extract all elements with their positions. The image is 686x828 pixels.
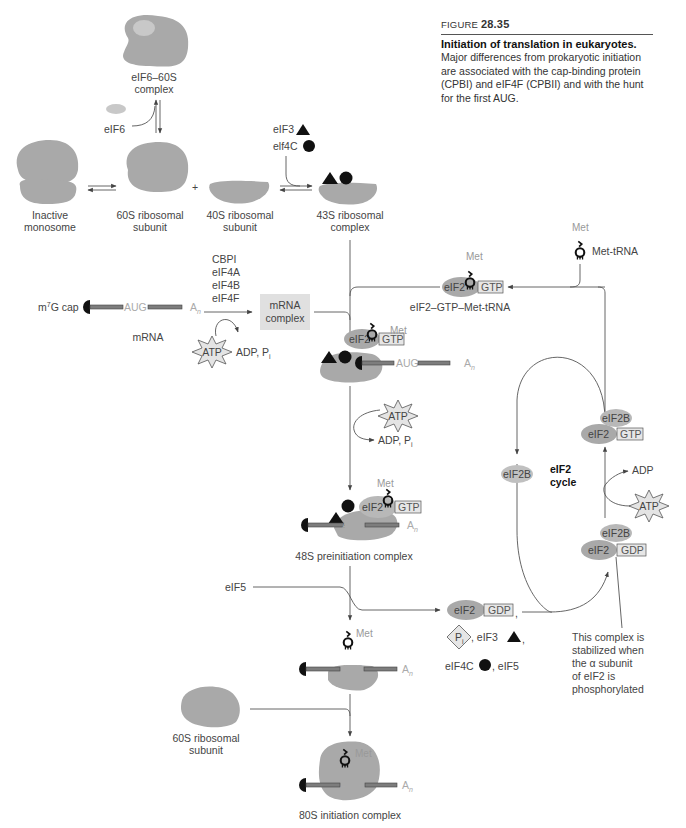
60s-label-2: subunit bbox=[133, 221, 167, 233]
release-to-cycle-arrow bbox=[522, 572, 608, 612]
80s-label: 80S initiation complex bbox=[299, 809, 402, 821]
mrna-complex-label-2: complex bbox=[265, 312, 305, 324]
released-eif5: , eIF5 bbox=[492, 660, 519, 672]
cycle-eif2b-eif2-gtp: eIF2B eIF2 GTP bbox=[581, 409, 643, 444]
final-60s-label-1: 60S ribosomal bbox=[172, 732, 239, 744]
svg-text:eIF2: eIF2 bbox=[588, 544, 609, 556]
mrna-complex-label-1: mRNA bbox=[270, 299, 301, 311]
phosphorylation-note: This complex is stabilized when the α su… bbox=[572, 631, 644, 695]
40s-label-1: 40S ribosomal bbox=[206, 209, 273, 221]
cycle-arc-top bbox=[517, 357, 605, 420]
mrna-complex-join-line bbox=[314, 312, 350, 320]
svg-text:stabilized when: stabilized when bbox=[572, 644, 644, 656]
released-eif4c-circle bbox=[479, 659, 491, 671]
factor-eif4a: eIF4A bbox=[212, 266, 240, 278]
pi-diamond: Pi bbox=[447, 625, 471, 649]
60s-label-1: 60S ribosomal bbox=[116, 209, 183, 221]
svg-text:GTP: GTP bbox=[620, 428, 642, 440]
mrna-bar-3 bbox=[148, 305, 182, 309]
released-eif2: eIF2 bbox=[454, 604, 475, 616]
48s-aug: AUG bbox=[342, 519, 365, 531]
svg-text:phosphorylated: phosphorylated bbox=[572, 683, 644, 695]
mrna-bar-5 bbox=[90, 305, 123, 309]
met-on-40s: Met bbox=[356, 628, 373, 639]
svg-text:eIF2B: eIF2B bbox=[602, 527, 630, 539]
released-comma: , bbox=[515, 607, 518, 619]
figure-page: FIGURE 28.35 Initiation of translation i… bbox=[0, 0, 686, 828]
met-trna-join-line bbox=[570, 264, 580, 287]
eif6-binding-arrow bbox=[132, 106, 155, 126]
svg-text:of eIF2 is: of eIF2 is bbox=[572, 670, 615, 682]
60s-subunit: 60S ribosomal subunit bbox=[116, 142, 188, 233]
inactive-label-1: Inactive bbox=[32, 209, 68, 221]
atp-hydrolysis-arrow-2 bbox=[354, 410, 380, 440]
scan-polya: An bbox=[464, 357, 475, 371]
plus-sign: + bbox=[192, 181, 198, 193]
cap-icon bbox=[83, 300, 90, 314]
eif6-60s-complex: eIF6–60S complex bbox=[123, 15, 188, 95]
40s-polya: An bbox=[402, 663, 413, 677]
atp-label-2: ATP bbox=[388, 410, 408, 422]
scan-met: Met bbox=[390, 325, 407, 336]
atp-burst-3: ATP bbox=[629, 490, 669, 522]
cycle-to-ternary-line bbox=[598, 287, 605, 420]
cap-label: m7G cap bbox=[38, 301, 79, 313]
released-eif3: , eIF3 bbox=[471, 631, 498, 643]
adp-pi-label-2: ADP, Pi bbox=[378, 434, 413, 448]
48s-label: 48S preinitiation complex bbox=[295, 550, 413, 562]
43s-label-1: 43S ribosomal bbox=[316, 209, 383, 221]
80s-initiation-complex: Met AUG An 80S initiation complex bbox=[299, 742, 413, 821]
factor-eif4b: eIF4B bbox=[212, 279, 240, 291]
eif3-triangle bbox=[296, 124, 310, 135]
43s-complex: 43S ribosomal complex bbox=[316, 172, 383, 234]
60s-join-line bbox=[250, 709, 350, 716]
svg-text:eIF2: eIF2 bbox=[588, 428, 609, 440]
cycle-eif2b: eIF2B bbox=[501, 465, 533, 483]
ternary-eif2: eIF2 bbox=[444, 281, 465, 293]
scanning-complex: eIF2 GTP Met AUG An bbox=[320, 323, 475, 382]
atp-hydrolysis-arrow-1 bbox=[215, 320, 238, 336]
ternary-to-scan-line bbox=[350, 287, 440, 296]
released-eif4c: eIF4C bbox=[445, 660, 474, 672]
released-comma-2: , bbox=[522, 633, 525, 645]
eif6-60s-label-2: complex bbox=[134, 83, 174, 95]
ternary-gtp: GTP bbox=[481, 281, 503, 293]
atp-label-1: ATP bbox=[202, 346, 222, 358]
40s-met-mrna: Met AUG An bbox=[299, 628, 413, 691]
80s-polya: An bbox=[402, 779, 413, 793]
ternary-complex: eIF2 GTP Met eIF2–GTP–Met-tRNA bbox=[410, 251, 510, 313]
43s-label-2: complex bbox=[330, 221, 370, 233]
svg-text:This complex is: This complex is bbox=[572, 631, 644, 643]
svg-text:GDP: GDP bbox=[621, 544, 644, 556]
mrna-aug: AUG bbox=[124, 301, 147, 313]
released-eif2-gdp: eIF2 GDP , bbox=[447, 600, 518, 620]
released-eif3-triangle bbox=[507, 631, 521, 642]
translation-diagram: eIF6–60S complex eIF6 Inactive monosome … bbox=[0, 0, 686, 828]
48s-met: Met bbox=[377, 478, 394, 489]
inactive-label-2: monosome bbox=[24, 221, 76, 233]
svg-text:ATP: ATP bbox=[639, 500, 659, 512]
adp-pi-label-1: ADP, Pi bbox=[236, 346, 271, 360]
80s-met: Met bbox=[355, 748, 372, 759]
factor-eif4f: eIF4F bbox=[212, 292, 239, 304]
atp-hydrolysis-arrow-3 bbox=[604, 471, 630, 506]
ternary-label: eIF2–GTP–Met-tRNA bbox=[410, 301, 510, 313]
atp-burst-1: ATP bbox=[192, 336, 232, 368]
eif4c-label: elf4C bbox=[273, 140, 298, 152]
met-trna-label: Met-tRNA bbox=[592, 245, 638, 257]
48s-preinitiation-complex: eIF2 GTP Met AUG An 48S preinitiation co… bbox=[295, 478, 421, 562]
mrna-label: mRNA bbox=[133, 331, 164, 343]
48s-polya: An bbox=[407, 519, 418, 533]
cycle-title-1: eIF2 bbox=[550, 463, 571, 475]
eif6-label: eIF6 bbox=[104, 123, 125, 135]
svg-text:eIF2B: eIF2B bbox=[602, 412, 630, 424]
factor-binding-line bbox=[286, 156, 300, 186]
final-60s-label-2: subunit bbox=[189, 744, 223, 756]
final-60s-subunit: 60S ribosomal subunit bbox=[172, 687, 239, 757]
note-pointer-line bbox=[616, 557, 622, 628]
scan-aug: AUG bbox=[396, 357, 419, 369]
eif4c-circle bbox=[303, 140, 315, 152]
48s-gtp: GTP bbox=[398, 501, 420, 513]
cycle-arc-bottom bbox=[517, 464, 552, 612]
inactive-monosome: Inactive monosome bbox=[17, 140, 79, 233]
